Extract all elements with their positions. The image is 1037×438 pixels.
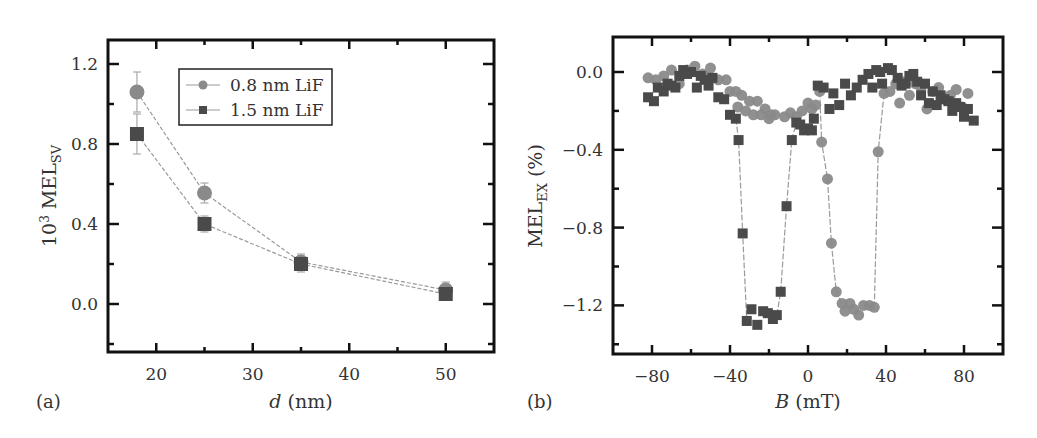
data-point-square [439,287,453,301]
data-point-square [787,135,797,145]
legend-square-marker-icon [199,106,207,114]
x-tick-label: 50 [435,364,457,384]
legend-item-label: 1.5 nm LiF [230,100,324,120]
data-point-square [707,73,717,83]
data-point-circle [826,238,837,249]
data-point-square [719,94,729,104]
data-point-square [828,88,838,98]
data-point-square [130,127,144,141]
data-point-square [807,125,817,135]
data-point-square [734,135,744,145]
data-point-circle [816,137,827,148]
data-point-square [294,257,308,271]
data-point-square [772,310,782,320]
data-point-circle [810,100,821,111]
data-point-circle [831,286,842,297]
y-tick-label: −0.4 [562,140,603,160]
panel-b-label: (b) [527,391,553,412]
data-point-circle [721,74,732,85]
data-point-square [731,114,741,124]
x-tick-label: 0 [803,366,814,386]
data-point-square [649,96,659,106]
panel-b-chart: −80−40040800.0−0.4−0.8−1.2 MELEX (%) B (… [524,37,1003,412]
panel-b-x-axis-label: B (mT) [774,390,841,412]
panel-a-x-axis-label: d (nm) [269,390,332,412]
data-point-circle [869,302,880,313]
panel-a-y-axis-label: 103 MELSV [38,144,64,247]
y-tick-label: 0.0 [576,62,603,82]
y-tick-label: 0.0 [71,294,98,314]
data-point-square [670,83,680,93]
data-point-circle [894,98,905,109]
data-point-circle [129,85,144,100]
x-tick-label: 30 [242,364,264,384]
data-point-square [738,228,748,238]
data-point-square [742,316,752,326]
data-point-square [782,201,792,211]
data-point-square [877,79,887,89]
data-point-circle [752,96,763,107]
panel-b-data-series [643,61,979,330]
x-tick-label: 40 [338,364,360,384]
data-point-square [969,116,979,126]
legend-circle-marker-icon [199,81,208,90]
x-tick-label: 80 [953,366,975,386]
data-point-circle [197,186,212,201]
y-tick-label: 0.4 [71,214,98,234]
x-tick-label: 40 [875,366,897,386]
data-point-circle [764,113,775,124]
panel-a-chart: 203040500.00.40.81.2 0.8 nm LiF 1.5 nm L… [36,40,494,412]
legend-item-label: 0.8 nm LiF [230,75,324,95]
data-point-square [752,320,762,330]
data-point-square [809,114,819,124]
data-point-square [834,100,844,110]
data-point-square [963,104,973,114]
panel-b-y-axis-label: MELEX (%) [524,144,550,248]
data-point-square [867,83,877,93]
data-point-circle [822,173,833,184]
x-tick-label: 20 [145,364,167,384]
y-tick-label: 1.2 [71,54,98,74]
data-point-circle [873,146,884,157]
data-point-square [819,83,829,93]
data-point-circle [904,90,915,101]
figure: 203040500.00.40.81.2 0.8 nm LiF 1.5 nm L… [0,0,1037,438]
panel-a-label: (a) [36,391,61,412]
x-tick-label: −80 [634,366,670,386]
data-point-circle [853,310,864,321]
y-tick-label: 0.8 [71,134,98,154]
x-tick-label: −40 [712,366,748,386]
data-point-square [746,304,756,314]
y-tick-label: −1.2 [562,295,603,315]
data-point-square [824,104,834,114]
data-point-square [840,79,850,89]
legend: 0.8 nm LiF 1.5 nm LiF [179,69,332,125]
data-point-square [776,287,786,297]
data-point-square [686,67,696,77]
data-point-square [198,217,212,231]
data-point-circle [951,84,962,95]
data-point-circle [705,63,716,74]
y-tick-label: −0.8 [562,218,603,238]
data-point-circle [962,88,973,99]
